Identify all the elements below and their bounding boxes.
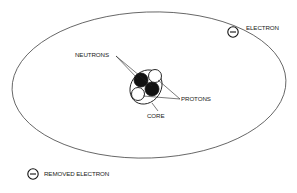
proton-icon <box>149 70 162 83</box>
neutron-icon <box>145 82 159 96</box>
neutrons-label: NEUTRONS <box>75 51 109 58</box>
electron <box>228 27 238 37</box>
proton-icon <box>132 88 145 101</box>
core-leader <box>152 103 158 111</box>
removed-electron-label: REMOVED ELECTRON <box>44 170 109 177</box>
electron-label: ELECTRON <box>246 24 279 31</box>
neutrons-leader <box>116 56 138 79</box>
core-label: CORE <box>147 112 164 119</box>
atom-diagram: ELECTRON NEUTRONS PROTONS CORE REMOVED E… <box>0 0 297 193</box>
protons-label: PROTONS <box>181 95 211 102</box>
removed-electron <box>28 169 38 179</box>
